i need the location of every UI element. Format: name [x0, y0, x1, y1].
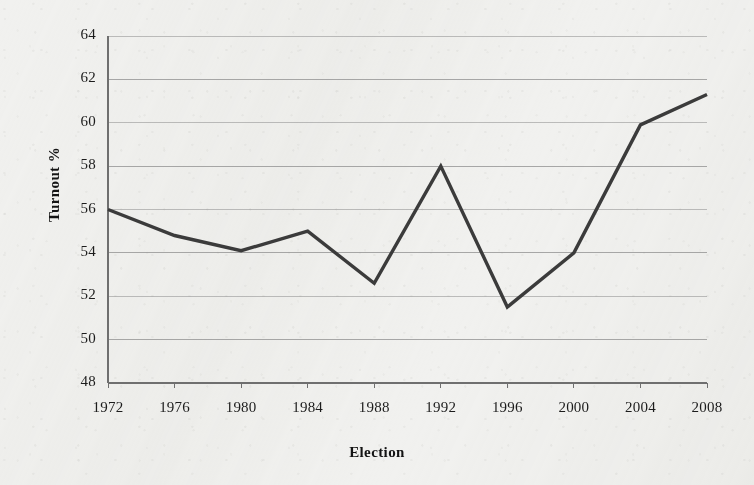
y-axis-title: Turnout %: [46, 125, 63, 245]
line-chart-figure: 485052545658606264 197219761980198419881…: [0, 0, 754, 485]
x-axis-title: Election: [0, 444, 754, 461]
x-tick-label: 2000: [544, 399, 604, 416]
x-tick-label: 1984: [278, 399, 338, 416]
y-tick-label: 64: [50, 26, 96, 43]
turnout-line-series: [108, 95, 707, 308]
y-tick-label: 54: [50, 243, 96, 260]
x-tick-label: 1988: [344, 399, 404, 416]
gridlines-group: [108, 36, 707, 383]
x-tick-label: 2004: [610, 399, 670, 416]
x-tick-label: 1980: [211, 399, 271, 416]
x-tick-label: 1996: [477, 399, 537, 416]
x-tick-label: 1972: [78, 399, 138, 416]
y-tick-label: 48: [50, 373, 96, 390]
x-tick-marks-group: [108, 383, 707, 388]
y-tick-label: 52: [50, 286, 96, 303]
y-tick-label: 62: [50, 69, 96, 86]
x-tick-label: 1992: [411, 399, 471, 416]
x-tick-label: 2008: [677, 399, 737, 416]
y-tick-label: 50: [50, 330, 96, 347]
x-tick-label: 1976: [145, 399, 205, 416]
data-series-group: [108, 95, 707, 308]
